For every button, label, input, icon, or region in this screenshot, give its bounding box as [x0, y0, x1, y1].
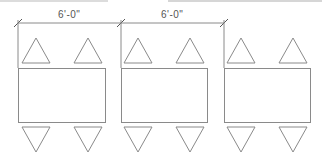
table-1: [19, 38, 106, 152]
tables-group: [19, 38, 311, 152]
chair-bottom-triangle: [74, 127, 102, 152]
chair-top-triangle: [74, 38, 102, 63]
chair-top-triangle: [279, 38, 307, 63]
chair-top-triangle: [22, 38, 50, 63]
chair-top-triangle: [176, 38, 204, 63]
table-rect: [225, 69, 311, 123]
floor-plan-drawing: [0, 0, 322, 164]
table-rect: [122, 69, 208, 123]
chair-bottom-triangle: [227, 127, 255, 152]
chair-bottom-triangle: [124, 127, 152, 152]
table-2: [122, 38, 208, 152]
table-3: [225, 38, 311, 152]
chair-top-triangle: [227, 38, 255, 63]
chair-bottom-triangle: [176, 127, 204, 152]
table-rect: [19, 69, 106, 123]
chair-bottom-triangle: [279, 127, 307, 152]
dimension-lines: [14, 19, 228, 68]
chair-bottom-triangle: [22, 127, 50, 152]
chair-top-triangle: [124, 38, 152, 63]
